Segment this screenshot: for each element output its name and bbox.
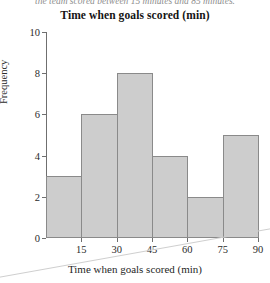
- x-tick-label: 15: [76, 244, 87, 255]
- x-tick-label: 75: [217, 244, 228, 255]
- histogram-bar: [46, 176, 82, 238]
- x-tick-mark: [152, 238, 153, 242]
- caption-text: the team scored between 15 minutes and 8…: [0, 0, 270, 5]
- x-tick-label: 60: [182, 244, 193, 255]
- y-tick-label: 4: [35, 150, 40, 161]
- histogram-bar: [152, 156, 188, 238]
- histogram-bar: [223, 135, 259, 238]
- x-tick-label: 45: [147, 244, 158, 255]
- x-tick-label: 90: [253, 244, 264, 255]
- histogram-figure: the team scored between 15 minutes and 8…: [0, 0, 270, 283]
- x-tick-mark: [117, 238, 118, 242]
- y-tick-mark: [42, 73, 46, 74]
- chart-title: Time when goals scored (min): [0, 9, 270, 21]
- x-tick-mark: [187, 238, 188, 242]
- y-axis-title: Frequency: [0, 60, 9, 104]
- x-tick-mark: [223, 238, 224, 242]
- y-tick-label: 0: [35, 233, 40, 244]
- histogram-bar: [117, 73, 153, 238]
- y-tick-mark: [42, 114, 46, 115]
- histogram-bar: [187, 197, 223, 238]
- plot-area: 0246810 153045607590: [46, 32, 258, 238]
- y-tick-label: 8: [35, 68, 40, 79]
- y-tick-label: 10: [30, 27, 41, 38]
- histogram-bar: [81, 114, 117, 238]
- y-tick-mark: [42, 32, 46, 33]
- y-tick-label: 6: [35, 109, 40, 120]
- x-axis-title: Time when goals scored (min): [0, 263, 270, 275]
- y-tick-mark: [42, 156, 46, 157]
- x-tick-mark: [258, 238, 259, 242]
- x-tick-label: 30: [111, 244, 122, 255]
- y-tick-label: 2: [35, 191, 40, 202]
- y-tick-mark: [42, 238, 46, 239]
- cropped-caption: the team scored between 15 minutes and 8…: [0, 0, 270, 5]
- x-tick-mark: [81, 238, 82, 242]
